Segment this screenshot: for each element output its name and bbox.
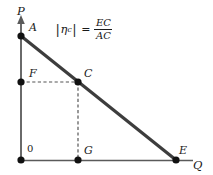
point-a-dot bbox=[17, 32, 24, 39]
origin-label: 0 bbox=[27, 144, 33, 154]
elasticity-formula: | η c | = EC AC bbox=[55, 18, 112, 41]
equals-sign: = bbox=[81, 24, 90, 35]
abs-bar-close: | bbox=[72, 23, 77, 36]
fraction-numerator: EC bbox=[95, 18, 112, 29]
point-g-label: G bbox=[84, 145, 93, 156]
point-f-label: F bbox=[29, 68, 37, 79]
point-g-dot bbox=[74, 156, 81, 163]
point-e-dot bbox=[172, 156, 179, 163]
quantity-axis-label: Q bbox=[193, 160, 202, 172]
point-origin-dot bbox=[17, 156, 24, 163]
point-e-label: E bbox=[179, 145, 187, 156]
point-c-dot bbox=[74, 78, 81, 85]
point-a-label: A bbox=[29, 22, 37, 33]
eta-symbol: η bbox=[60, 24, 67, 36]
elasticity-diagram: P Q 0 A F C G E | η c | = EC AC bbox=[0, 0, 213, 175]
demand-line bbox=[21, 36, 176, 160]
formula-fraction: EC AC bbox=[94, 18, 112, 41]
point-f-dot bbox=[17, 78, 24, 85]
point-c-label: C bbox=[84, 68, 92, 79]
price-axis-label: P bbox=[17, 6, 25, 18]
fraction-denominator: AC bbox=[95, 30, 112, 41]
